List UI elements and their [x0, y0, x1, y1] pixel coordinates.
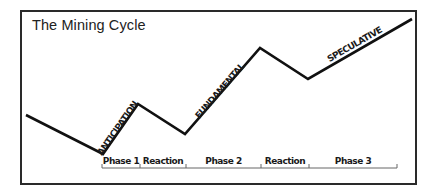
phase-label-phase-2: Phase 2 — [205, 156, 242, 166]
phase-label-phase-3: Phase 3 — [335, 156, 372, 166]
phase-label-reaction-1: Reaction — [143, 156, 184, 166]
stage-label-anticipation: ANTICIPATION — [95, 99, 140, 157]
mining-cycle-diagram: ANTICIPATION FUNDAMENTAL SPECULATIVE Pha… — [0, 0, 435, 190]
stage-label-speculative: SPECULATIVE — [326, 25, 384, 64]
stage-label-fundamental: FUNDAMENTAL — [193, 61, 247, 121]
phase-label-phase-1: Phase 1 — [103, 156, 140, 166]
phase-label-reaction-2: Reaction — [265, 156, 306, 166]
